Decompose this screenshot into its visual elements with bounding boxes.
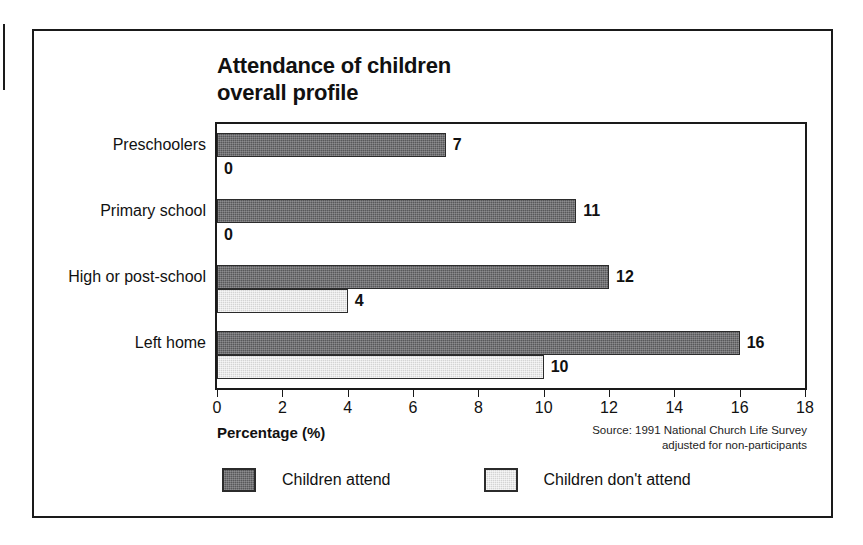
x-axis-tick-label: 4 xyxy=(343,399,352,417)
bar-group: 124 xyxy=(217,265,805,313)
x-axis-tick-label: 16 xyxy=(731,399,749,417)
bar-children-attend xyxy=(217,133,446,157)
x-axis: 024681012141618 xyxy=(215,390,807,426)
bar-children-dont-attend xyxy=(217,355,544,379)
category-label: High or post-school xyxy=(68,268,206,286)
x-axis-tick xyxy=(413,390,414,397)
chart-title: Attendance of children overall profile xyxy=(217,53,451,107)
bars-layer: 701101241610 xyxy=(217,124,805,388)
legend-item-label: Children don't attend xyxy=(544,471,691,489)
bar-value-label: 7 xyxy=(453,136,462,154)
source-note: Source: 1991 National Church Life Survey… xyxy=(592,423,807,454)
x-axis-tick xyxy=(740,390,741,397)
bar-group: 110 xyxy=(217,199,805,247)
bar-value-label: 10 xyxy=(551,358,569,376)
bar-group: 70 xyxy=(217,133,805,181)
x-axis-title: Percentage (%) xyxy=(217,424,325,441)
category-label: Left home xyxy=(135,334,206,352)
x-axis-tick xyxy=(217,390,218,397)
category-label: Primary school xyxy=(100,202,206,220)
x-axis-tick-label: 2 xyxy=(278,399,287,417)
bar-value-label: 12 xyxy=(616,268,634,286)
legend-item-children-dont-attend: Children don't attend xyxy=(484,468,691,492)
legend-item-children-attend: Children attend xyxy=(222,468,391,492)
plot-area: 701101241610 xyxy=(215,122,807,390)
x-axis-tick xyxy=(674,390,675,397)
x-axis-tick-label: 8 xyxy=(474,399,483,417)
dark-hatch-swatch xyxy=(222,468,256,492)
bar-value-label: 4 xyxy=(355,292,364,310)
x-axis-tick xyxy=(282,390,283,397)
x-axis-tick xyxy=(805,390,806,397)
bar-value-label: 0 xyxy=(224,226,233,244)
chart-figure-frame: Attendance of children overall profile P… xyxy=(32,29,833,518)
x-axis-tick-label: 10 xyxy=(535,399,553,417)
chart-legend: Children attend Children don't attend xyxy=(222,468,691,492)
bar-children-attend xyxy=(217,199,576,223)
legend-item-label: Children attend xyxy=(282,471,391,489)
x-axis-tick-label: 6 xyxy=(409,399,418,417)
x-axis-tick xyxy=(609,390,610,397)
bar-group: 1610 xyxy=(217,331,805,379)
bar-children-dont-attend xyxy=(217,289,348,313)
x-axis-tick-label: 0 xyxy=(213,399,222,417)
bar-children-attend xyxy=(217,331,740,355)
category-label: Preschoolers xyxy=(113,136,206,154)
x-axis-tick-label: 18 xyxy=(796,399,814,417)
bar-value-label: 0 xyxy=(224,160,233,178)
bar-value-label: 16 xyxy=(747,334,765,352)
bar-value-label: 11 xyxy=(583,202,600,220)
x-axis-tick xyxy=(544,390,545,397)
scan-edge-artifact xyxy=(3,24,5,90)
x-axis-tick xyxy=(478,390,479,397)
bar-children-attend xyxy=(217,265,609,289)
category-axis-labels: PreschoolersPrimary schoolHigh or post-s… xyxy=(34,122,206,390)
light-hatch-swatch xyxy=(484,468,518,492)
x-axis-tick-label: 12 xyxy=(600,399,618,417)
x-axis-tick xyxy=(348,390,349,397)
x-axis-tick-label: 14 xyxy=(665,399,683,417)
